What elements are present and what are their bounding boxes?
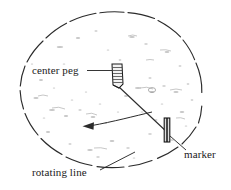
diagram-canvas [0,0,231,190]
rotating-line-diagram: center peg marker rotating line [0,0,231,190]
label-rotating-line: rotating line [32,166,87,178]
label-center-peg: center peg [32,64,79,76]
rotating-line [119,87,168,133]
rotation-arrowhead [83,122,95,130]
ground-speckle-marks [38,35,185,149]
marker-shape [164,118,170,142]
ground-circle [20,12,202,168]
center-peg-shape [112,64,123,88]
label-marker: marker [184,148,216,160]
rotation-direction-arrow [92,112,152,126]
